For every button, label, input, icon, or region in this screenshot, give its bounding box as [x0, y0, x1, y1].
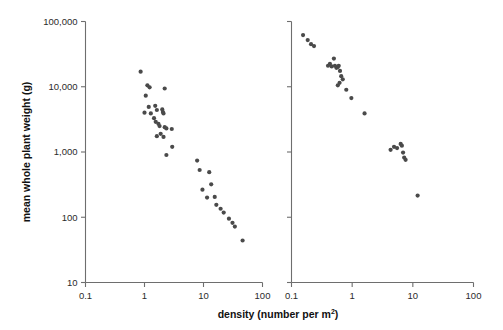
data-point — [241, 238, 245, 242]
data-point — [161, 111, 165, 115]
left-y-ticklabel-100: 100 — [62, 212, 78, 223]
left-y-ticklabels: 100,00010,0001,00010010 — [43, 16, 77, 288]
data-point — [152, 116, 156, 120]
left-y-ticks — [81, 22, 86, 283]
data-point — [404, 158, 408, 162]
data-point — [144, 94, 148, 98]
left-y-ticklabel-10,000: 10,000 — [48, 81, 77, 92]
data-point — [337, 64, 341, 68]
data-point — [195, 158, 199, 162]
left-x-ticklabel-0.1: 0.1 — [79, 290, 92, 301]
data-point — [214, 203, 218, 207]
data-point — [401, 150, 405, 154]
data-point — [227, 217, 231, 221]
data-point — [344, 88, 348, 92]
data-point — [163, 86, 167, 90]
data-point — [170, 127, 174, 131]
data-point — [198, 168, 202, 172]
right-x-ticks — [292, 283, 474, 288]
data-point — [230, 221, 234, 225]
left-points — [139, 70, 245, 243]
data-point — [416, 193, 420, 197]
data-point — [142, 111, 146, 115]
left-panel: 100,00010,0001,00010010 0.1110100 — [43, 16, 270, 301]
x-axis-title-tail: ) — [335, 308, 339, 320]
data-point — [161, 135, 165, 139]
data-point — [389, 148, 393, 152]
data-point — [349, 96, 353, 100]
data-point — [164, 153, 168, 157]
right-x-ticklabel-0.1: 0.1 — [285, 290, 298, 301]
data-point — [200, 188, 204, 192]
right-x-ticklabel-1: 1 — [350, 290, 355, 301]
data-point — [207, 170, 211, 174]
right-y-ticks — [287, 22, 292, 283]
left-x-ticklabel-10: 10 — [198, 290, 209, 301]
data-point — [209, 182, 213, 186]
left-y-ticklabel-100,000: 100,000 — [43, 16, 77, 27]
left-y-ticklabel-1,000: 1,000 — [54, 146, 78, 157]
y-axis-title: mean whole plant weight (g) — [20, 82, 32, 223]
right-x-ticklabel-10: 10 — [408, 290, 419, 301]
left-x-ticklabel-1: 1 — [142, 290, 147, 301]
data-point — [301, 33, 305, 37]
scatter-figure: 100,00010,0001,00010010 0.1110100 0.1110… — [0, 0, 503, 330]
data-point — [312, 44, 316, 48]
data-point — [164, 126, 168, 130]
data-point — [338, 69, 342, 73]
left-x-ticklabel-100: 100 — [255, 290, 271, 301]
data-point — [148, 85, 152, 89]
data-point — [222, 210, 226, 214]
data-point — [153, 104, 157, 108]
left-x-ticklabels: 0.1110100 — [79, 290, 271, 301]
data-point — [362, 111, 366, 115]
right-x-ticklabels: 0.1110100 — [285, 290, 482, 301]
data-point — [170, 145, 174, 149]
data-point — [332, 57, 336, 61]
right-points — [301, 33, 420, 198]
data-point — [205, 196, 209, 200]
data-point — [337, 81, 341, 85]
data-point — [159, 132, 163, 136]
data-point — [400, 144, 404, 148]
data-point — [233, 224, 237, 228]
data-point — [395, 146, 399, 150]
right-panel: 0.1110100 — [285, 22, 482, 301]
data-point — [155, 134, 159, 138]
data-point — [341, 77, 345, 81]
data-point — [155, 108, 159, 112]
data-point — [213, 195, 217, 199]
data-point — [147, 105, 151, 109]
left-x-ticks — [86, 283, 263, 288]
x-axis-title-main: density (number per m — [218, 308, 331, 320]
x-axis-title: density (number per m2) — [218, 308, 339, 320]
data-point — [306, 38, 310, 42]
right-x-ticklabel-100: 100 — [466, 290, 482, 301]
data-point — [219, 207, 223, 211]
data-point — [149, 111, 153, 115]
data-point — [139, 70, 143, 74]
left-y-ticklabel-10: 10 — [67, 277, 78, 288]
data-point — [157, 124, 161, 128]
